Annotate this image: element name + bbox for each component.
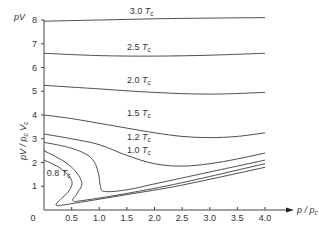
isotherm-curve — [44, 151, 265, 202]
y-axis-label: pV / pc Vc — [18, 121, 29, 161]
isotherm-curve — [44, 142, 265, 191]
y-tick-label: 6 — [32, 63, 37, 73]
isotherm-curve — [44, 18, 265, 22]
isotherm-curve — [44, 85, 265, 94]
curve-label: 1.0 Tc — [127, 145, 152, 156]
axes: 123456780.51.01.52.02.53.03.54.00pVp / p… — [13, 12, 319, 223]
curve-label: 2.5 Tc — [127, 42, 152, 53]
top-axis-label: pV — [13, 12, 26, 22]
isotherm-curve — [44, 53, 265, 56]
y-tick-label: 8 — [32, 15, 37, 25]
y-tick-label: 1 — [32, 181, 37, 191]
x-tick-label: 3.0 — [203, 213, 216, 223]
origin-label: 0 — [30, 213, 35, 223]
x-tick-label: 2.5 — [176, 213, 189, 223]
x-tick-label: 3.5 — [231, 213, 244, 223]
isotherm-curves — [44, 18, 265, 206]
y-tick-label: 2 — [32, 158, 37, 168]
y-tick-label: 4 — [32, 110, 37, 120]
x-tick-label: 2.0 — [148, 213, 161, 223]
curve-labels: 3.0 Tc2.5 Tc2.0 Tc1.5 Tc1.2 Tc1.0 Tc0.8 … — [47, 6, 154, 179]
x-axis-label: p / pc — [296, 205, 319, 216]
y-tick-label: 5 — [32, 86, 37, 96]
curve-label: 3.0 Tc — [130, 6, 155, 17]
x-tick-label: 1.0 — [93, 213, 106, 223]
x-tick-label: 4.0 — [259, 213, 272, 223]
isotherm-curve — [44, 115, 265, 138]
curve-label: 2.0 Tc — [127, 75, 152, 86]
x-tick-label: 0.5 — [65, 213, 78, 223]
curve-label: 1.5 Tc — [127, 108, 152, 119]
pv-isotherm-chart: 123456780.51.01.52.02.53.03.54.00pVp / p… — [0, 0, 319, 228]
y-tick-label: 7 — [32, 39, 37, 49]
x-tick-label: 1.5 — [121, 213, 134, 223]
x-axis-arrow-icon — [286, 208, 294, 213]
y-tick-label: 3 — [32, 134, 37, 144]
curve-label: 1.2 Tc — [127, 132, 152, 143]
curve-label: 0.8 Tc — [47, 168, 72, 179]
